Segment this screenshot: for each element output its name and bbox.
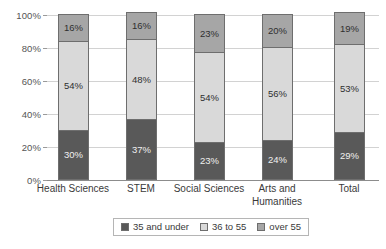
legend-swatch-icon xyxy=(121,223,129,231)
bar-series-container: 30% 54% 16% 37% 48% 16% 23% 54% 23% 24% … xyxy=(47,15,379,181)
legend-swatch-icon xyxy=(200,223,208,231)
bar-segment-36-to-55[interactable]: 48% xyxy=(126,39,157,119)
bar-group-health-sciences[interactable]: 30% 54% 16% xyxy=(58,14,89,180)
bar-segment-over-55[interactable]: 19% xyxy=(334,12,365,44)
bar-segment-over-55[interactable]: 16% xyxy=(126,12,157,39)
y-axis-label-80: 80% xyxy=(5,43,41,54)
chart-legend: 35 and under 36 to 55 over 55 xyxy=(113,218,309,236)
bar-segment-35-and-under[interactable]: 23% xyxy=(194,142,225,180)
bar-group-stem[interactable]: 37% 48% 16% xyxy=(126,12,157,180)
plot-area: 30% 54% 16% 37% 48% 16% 23% 54% 23% 24% … xyxy=(47,15,379,181)
bar-segment-36-to-55[interactable]: 54% xyxy=(194,52,225,142)
legend-label: 36 to 55 xyxy=(212,221,246,232)
bar-segment-35-and-under[interactable]: 29% xyxy=(334,132,365,180)
y-axis-label-60: 60% xyxy=(5,76,41,87)
bar-segment-over-55[interactable]: 23% xyxy=(194,14,225,52)
stacked-bar-chart: 100% 80% 60% 40% 20% 0% 30% 54% 16% xyxy=(0,0,386,249)
bar-segment-36-to-55[interactable]: 53% xyxy=(334,44,365,132)
y-axis-label-40: 40% xyxy=(5,109,41,120)
legend-item-over-55[interactable]: over 55 xyxy=(257,221,301,232)
bar-segment-over-55[interactable]: 20% xyxy=(262,14,293,47)
bar-segment-over-55[interactable]: 16% xyxy=(58,14,89,41)
bar-segment-35-and-under[interactable]: 24% xyxy=(262,140,293,180)
bar-group-social-sciences[interactable]: 23% 54% 23% xyxy=(194,14,225,180)
legend-swatch-icon xyxy=(257,223,265,231)
legend-item-36-to-55[interactable]: 36 to 55 xyxy=(200,221,246,232)
y-axis-label-100: 100% xyxy=(5,10,41,21)
bar-segment-36-to-55[interactable]: 54% xyxy=(58,41,89,131)
y-axis-label-20: 20% xyxy=(5,142,41,153)
legend-label: over 55 xyxy=(269,221,301,232)
bar-segment-36-to-55[interactable]: 56% xyxy=(262,47,293,140)
bar-group-total[interactable]: 29% 53% 19% xyxy=(334,12,365,180)
x-axis-label-total: Total xyxy=(301,183,386,196)
legend-item-35-and-under[interactable]: 35 and under xyxy=(121,221,189,232)
bar-segment-35-and-under[interactable]: 30% xyxy=(58,130,89,180)
bar-group-arts-and-humanities[interactable]: 24% 56% 20% xyxy=(262,14,293,180)
legend-label: 35 and under xyxy=(133,221,189,232)
bar-segment-35-and-under[interactable]: 37% xyxy=(126,119,157,180)
